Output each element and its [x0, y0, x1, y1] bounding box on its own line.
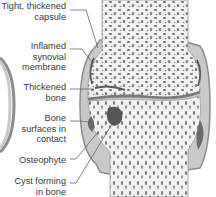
osteoarthritis-joint-diagram: Tight, thickened capsule Inflamed synovi…	[0, 0, 216, 197]
label-tight-thickened-capsule: Tight, thickened capsule	[1, 1, 66, 22]
label-inflamed-synovial-membrane: Inflamed synovial membrane	[22, 41, 66, 73]
lower-bone	[88, 96, 201, 197]
label-cyst-forming-in-bone: Cyst forming in bone	[14, 176, 66, 197]
label-bone-surfaces-in-contact: Bone surfaces in contact	[22, 113, 66, 145]
label-osteophyte: Osteophyte	[19, 155, 66, 166]
label-thickened-bone: Thickened bone	[24, 82, 66, 103]
upper-bone	[88, 0, 200, 99]
